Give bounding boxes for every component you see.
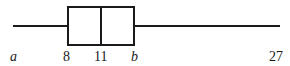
label-min: a (10, 50, 17, 64)
label-q1: 8 (63, 50, 70, 64)
label-max: 27 (269, 50, 283, 64)
label-q3: b (131, 50, 138, 64)
label-median: 11 (94, 50, 107, 64)
box-plot (0, 0, 290, 66)
